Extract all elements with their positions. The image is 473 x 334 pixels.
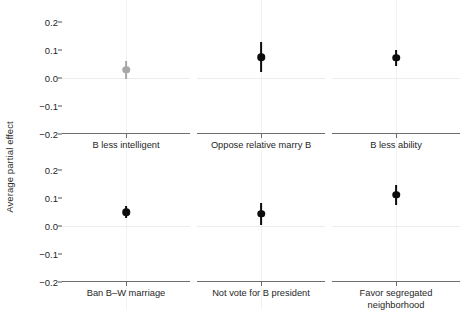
y-tick-label: 0.1 (14, 45, 58, 56)
panel-label: Not vote for B president (191, 288, 331, 300)
panel-axis-tick (396, 282, 397, 286)
y-tick-label: −0.2 (14, 277, 58, 288)
y-tick-label: 0.1 (14, 193, 58, 204)
y-tick-label: 0.0 (14, 73, 58, 84)
chart-panel: Oppose relative marry B (197, 8, 325, 133)
y-tick-label: −0.1 (14, 101, 58, 112)
zero-reference-line (332, 78, 460, 79)
panel-row-bottom: 0.20.10.0−0.1−0.2 Ban B–W marriageNot vo… (0, 156, 473, 304)
y-tick-label: 0.2 (14, 17, 58, 28)
panel-label: Favor segregated neighborhood (326, 288, 466, 311)
y-axis-ticks-top: 0.20.10.0−0.1−0.2 (10, 8, 58, 156)
y-tick-label: 0.2 (14, 165, 58, 176)
zero-reference-line (197, 226, 325, 227)
chart-panel: Ban B–W marriage (62, 156, 190, 281)
chart-panel: Not vote for B president (197, 156, 325, 281)
point-estimate-marker (122, 208, 130, 216)
zero-reference-line (332, 226, 460, 227)
panel-row-top: 0.20.10.0−0.1−0.2 B less intelligentOppo… (0, 8, 473, 156)
panel-axis-tick (126, 134, 127, 138)
point-estimate-marker (257, 53, 265, 61)
point-estimate-marker (122, 66, 130, 74)
y-tick-label: −0.2 (14, 129, 58, 140)
panel-axis-tick (261, 134, 262, 138)
y-axis-ticks-bottom: 0.20.10.0−0.1−0.2 (10, 156, 58, 304)
point-estimate-marker (257, 210, 265, 218)
y-tick-label: −0.1 (14, 249, 58, 260)
zero-reference-line (197, 78, 325, 79)
zero-reference-line (62, 226, 190, 227)
panel-axis-tick (261, 282, 262, 286)
panel-axis-tick (126, 282, 127, 286)
panel-label: Ban B–W marriage (56, 288, 196, 300)
point-estimate-marker (392, 191, 400, 199)
chart-panel: B less intelligent (62, 8, 190, 133)
chart-panel: Favor segregated neighborhood (332, 156, 460, 281)
point-estimate-marker (392, 54, 400, 62)
panel-axis-tick (396, 134, 397, 138)
y-tick-label: 0.0 (14, 221, 58, 232)
chart-figure: Average partial effect 0.20.10.0−0.1−0.2… (0, 0, 473, 334)
chart-panel: B less ability (332, 8, 460, 133)
